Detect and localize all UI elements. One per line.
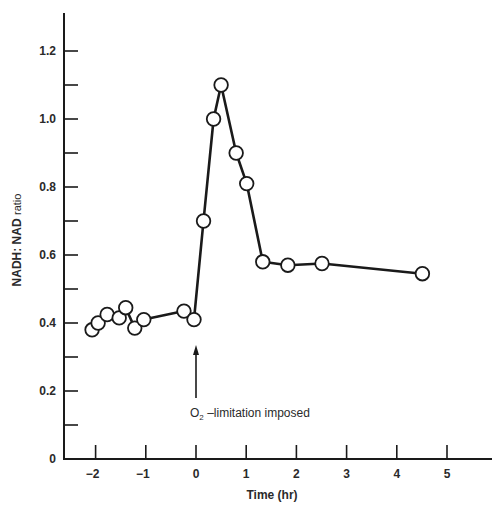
data-point-marker: [281, 258, 295, 272]
data-point-marker: [207, 112, 221, 126]
x-axis-title: Time (hr): [246, 488, 297, 502]
x-tick-label: 0: [193, 467, 200, 481]
x-tick-label: 5: [444, 467, 451, 481]
y-axis-title-sub-text: ratio: [11, 194, 23, 215]
data-point-marker: [256, 255, 270, 269]
y-tick-label: 0.6: [39, 248, 56, 262]
data-point-marker: [315, 257, 329, 271]
data-point-marker: [119, 301, 133, 315]
y-axis-title-main: NADH: NAD: [10, 218, 24, 286]
y-tick-label: 0.4: [39, 316, 56, 330]
x-tick-label: 3: [343, 467, 350, 481]
data-point-marker: [187, 313, 201, 327]
data-point-marker: [229, 146, 243, 160]
y-tick-label: 0: [49, 452, 56, 466]
y-tick-label: 0.2: [39, 384, 56, 398]
data-point-marker: [214, 78, 228, 92]
y-tick-label: 0.8: [39, 180, 56, 194]
data-point-marker: [137, 313, 151, 327]
x-tick-label: 1: [243, 467, 250, 481]
x-axis: −2−1012345: [63, 445, 492, 481]
plot-area: [85, 78, 429, 336]
annotation: O2 –limitation imposed: [190, 345, 310, 422]
y-axis-title: NADH: NAD ratio: [10, 194, 24, 287]
annotation-text: O2 –limitation imposed: [190, 406, 310, 422]
nadh-nad-ratio-chart: 00.20.40.60.81.01.2 −2−1012345 O2 –limit…: [0, 0, 502, 522]
arrow-head-icon: [193, 345, 199, 355]
annotation-rest: –limitation imposed: [204, 406, 310, 420]
x-tick-label: 4: [393, 467, 400, 481]
x-tick-label: −1: [136, 467, 150, 481]
x-tick-label: −2: [86, 467, 100, 481]
series-line: [92, 85, 422, 330]
data-point-marker: [240, 177, 254, 191]
x-tick-label: 2: [293, 467, 300, 481]
data-point-marker: [197, 214, 211, 228]
annotation-o: O: [190, 406, 199, 420]
data-point-marker: [416, 267, 430, 281]
y-tick-label: 1.2: [39, 44, 56, 58]
y-axis: 00.20.40.60.81.01.2: [39, 13, 78, 466]
y-tick-label: 1.0: [39, 112, 56, 126]
